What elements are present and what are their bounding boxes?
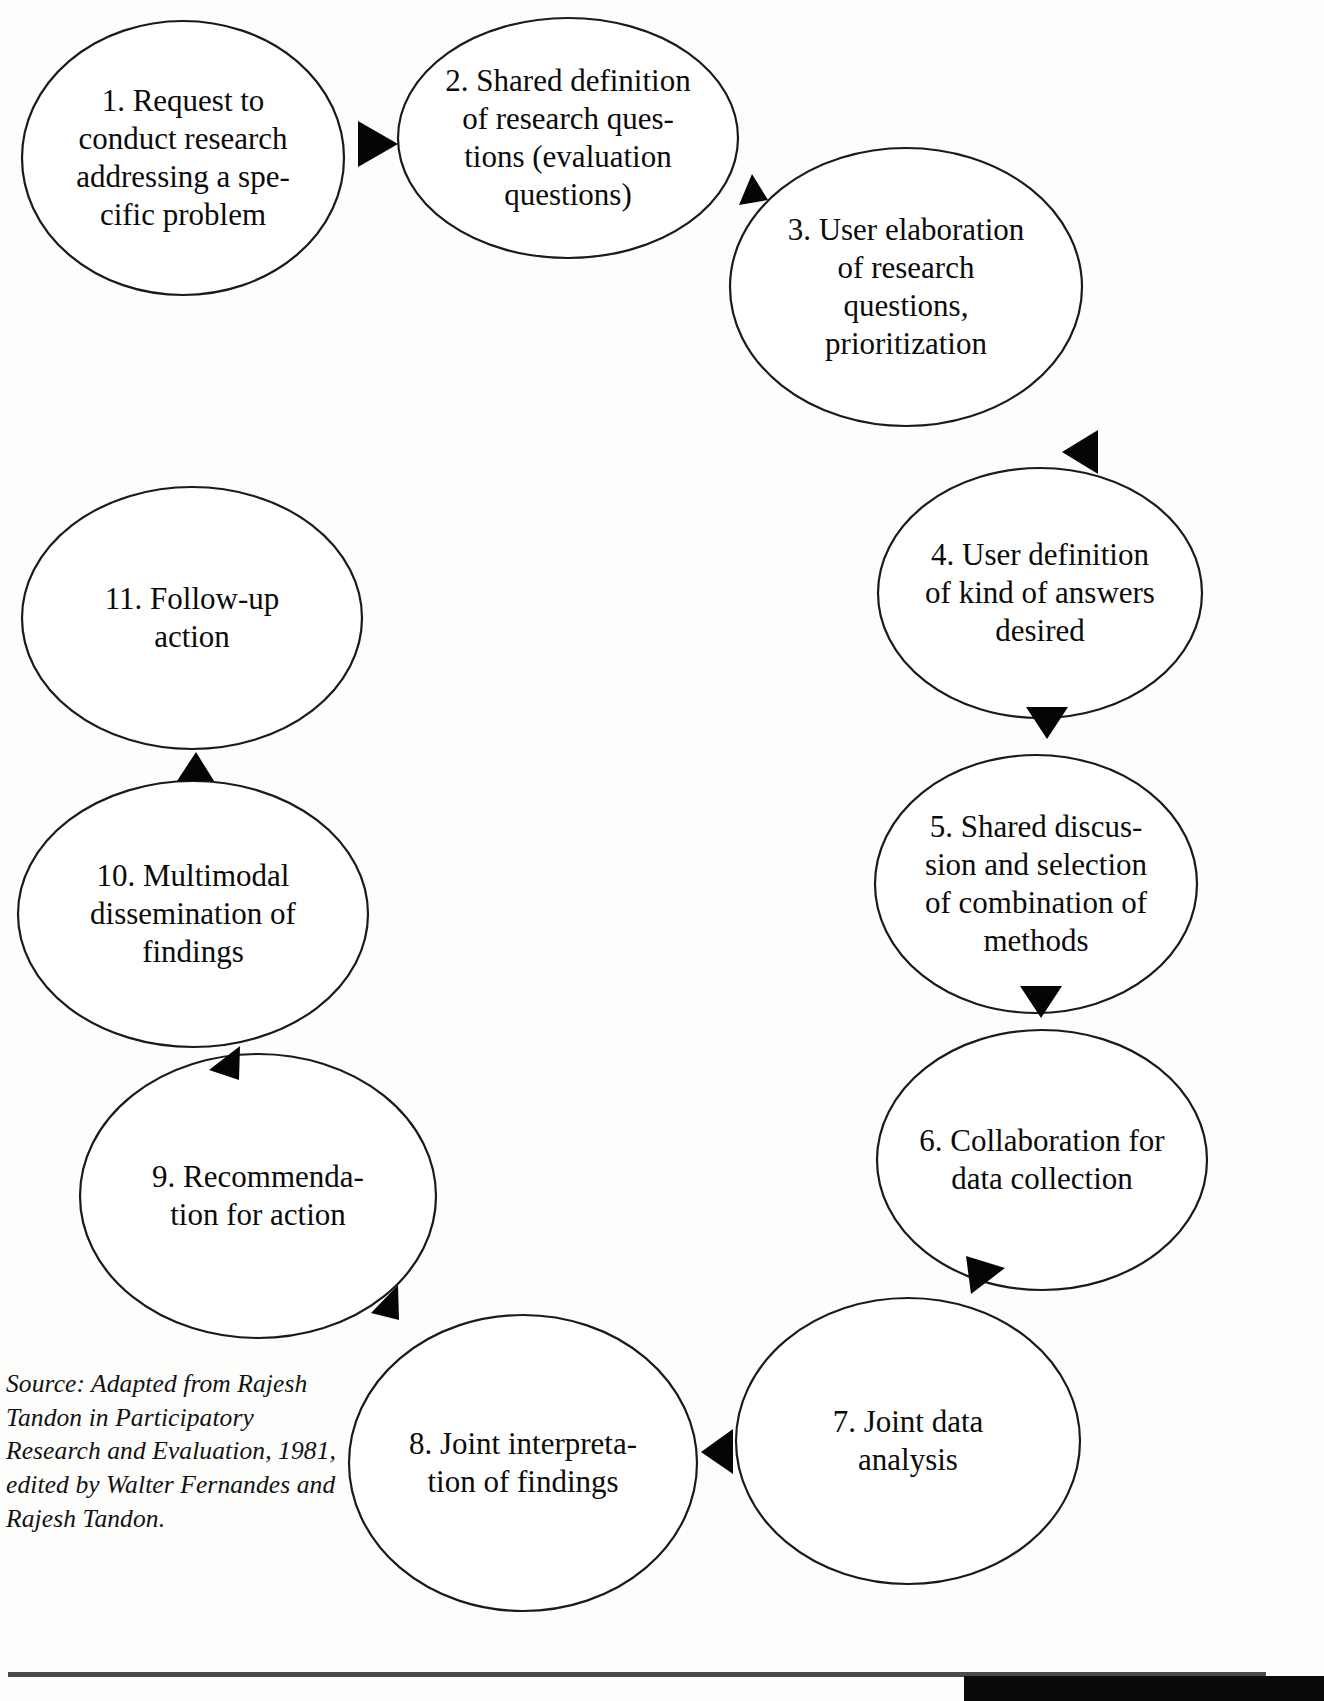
node-4[interactable]: 4. User definitionof kind of answersdesi… [878, 468, 1202, 718]
footer-black-block [964, 1676, 1324, 1701]
node-9-shape[interactable] [80, 1054, 436, 1338]
node-11-shape[interactable] [22, 487, 362, 749]
node-1[interactable]: 1. Request toconduct researchaddressing … [22, 21, 344, 295]
node-6-shape[interactable] [877, 1030, 1207, 1290]
node-9[interactable]: 9. Recommenda-tion for action [80, 1054, 436, 1338]
node-3-shape[interactable] [730, 148, 1082, 426]
node-10[interactable]: 10. Multimodaldissemination offindings [18, 781, 368, 1047]
arrow-1-to-2 [358, 121, 398, 167]
node-11[interactable]: 11. Follow-upaction [22, 487, 362, 749]
node-2[interactable]: 2. Shared definitionof research ques-tio… [398, 18, 738, 258]
node-3[interactable]: 3. User elaborationof researchquestions,… [730, 148, 1082, 426]
arrow-10-to-11 [177, 752, 214, 781]
arrow-4-to-3 [1062, 430, 1098, 474]
arrow-2-to-3 [739, 174, 768, 205]
node-5[interactable]: 5. Shared discus-sion and selectionof co… [875, 755, 1197, 1013]
node-6[interactable]: 6. Collaboration fordata collection [877, 1030, 1207, 1290]
node-8-shape[interactable] [349, 1315, 697, 1611]
node-1-shape[interactable] [22, 21, 344, 295]
node-7-shape[interactable] [736, 1298, 1080, 1584]
node-7[interactable]: 7. Joint dataanalysis [736, 1298, 1080, 1584]
source-note: Source: Adapted from Rajesh Tandon in Pa… [6, 1367, 336, 1535]
node-5-shape[interactable] [875, 755, 1197, 1013]
node-8[interactable]: 8. Joint interpreta-tion of findings [349, 1315, 697, 1611]
diagram-page: 1. Request toconduct researchaddressing … [0, 0, 1324, 1701]
node-2-shape[interactable] [398, 18, 738, 258]
arrow-7-to-8 [701, 1429, 733, 1474]
arrow-4-to-5 [1026, 707, 1068, 739]
